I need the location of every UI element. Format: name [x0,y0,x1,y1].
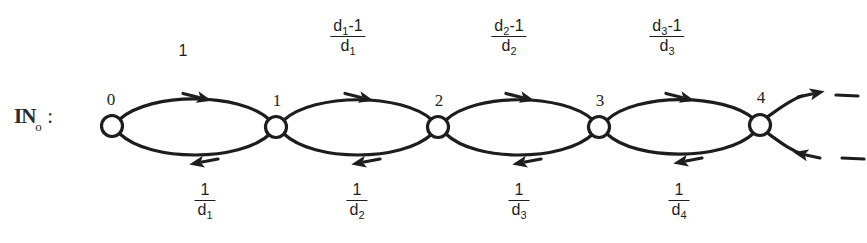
edge-3-2-backward-arrowhead [525,159,541,162]
node-circles [102,115,771,138]
edge-label-top-0: 1 [179,42,188,60]
num-base: d [652,17,661,34]
fraction-numerator: d1-1 [330,18,365,37]
fraction: 1 d3 [508,182,529,219]
node-label-4: 4 [749,88,773,108]
den-base: d [511,201,520,218]
fraction-numerator: d2-1 [491,18,526,37]
node-label-3: 3 [588,91,612,111]
fraction: d1-1 d1 [330,18,365,55]
den-base: d [659,37,668,54]
markov-chain-diagram: INo: [0,0,867,243]
edge-label-bottom-2: 1 d3 [508,182,529,219]
den-base: d [340,37,349,54]
edge-out-tail-top [836,95,858,96]
fraction-denominator: d1 [330,37,365,55]
edge-label-top-0-value: 1 [179,43,188,59]
edge-in-tail-bottom [842,158,864,159]
num-tail: -1 [509,17,523,34]
edge-label-top-1: d1-1 d1 [330,18,365,55]
fraction: 1 d4 [668,182,689,219]
edge-4-3-backward-arrowhead [686,158,702,161]
fraction-numerator: 1 [194,182,215,201]
node-circle-3[interactable] [589,117,610,138]
den-subscript: 3 [520,209,526,221]
den-base: d [197,201,206,218]
edge-1-0-backward-arrowhead [202,159,218,162]
fraction-denominator: d2 [346,201,367,219]
fraction: d3-1 d3 [649,18,684,55]
den-base: d [501,37,510,54]
fraction-numerator: 1 [668,182,689,201]
edge-0-1-forward [120,99,270,120]
node-label-1: 1 [265,91,289,111]
edge-1-2-forward [284,100,432,120]
fraction: 1 d2 [346,182,367,219]
fraction: d2-1 d2 [491,18,526,55]
num-base: d [333,17,342,34]
edge-3-2-backward [446,134,593,155]
node-circle-0[interactable] [102,116,123,137]
fraction-denominator: d2 [491,37,526,55]
edge-2-3-forward [446,100,593,120]
edge-label-top-3: d3-1 d3 [649,18,684,55]
edge-3-4-forward [607,100,754,120]
edge-2-1-backward-arrowhead [364,159,380,162]
edge-2-1-backward [284,134,432,155]
fraction-denominator: d3 [649,37,684,55]
edge-in-to-4-backward [766,132,804,155]
edge-label-top-2: d2-1 d2 [491,18,526,55]
den-subscript: 2 [358,209,364,221]
edge-in-to-4-backward-arrowhead [806,155,820,158]
den-subscript: 4 [680,209,686,221]
den-base: d [349,201,358,218]
fraction-denominator: d3 [508,201,529,219]
node-circle-2[interactable] [428,117,449,138]
den-subscript: 1 [206,209,212,221]
fraction-numerator: 1 [346,182,367,201]
edge-label-bottom-3: 1 d4 [668,182,689,219]
fraction-denominator: d4 [668,201,689,219]
den-subscript: 2 [510,45,516,57]
node-circle-1[interactable] [266,117,287,138]
fraction: 1 d1 [194,182,215,219]
fraction-numerator: d3-1 [649,18,684,37]
num-base: d [494,17,503,34]
num-tail: -1 [348,17,362,34]
node-label-0: 0 [99,90,123,110]
edge-4-out-forward-arrowhead [798,94,812,97]
node-label-2: 2 [427,91,451,111]
num-tail: -1 [667,17,681,34]
edge-label-bottom-1: 1 d2 [346,182,367,219]
den-base: d [671,201,680,218]
edge-1-0-backward [120,134,270,155]
fraction-numerator: 1 [508,182,529,201]
den-subscript: 3 [668,45,674,57]
edge-2-3-forward-arrowhead [506,94,522,98]
fraction-denominator: d1 [194,201,215,219]
edge-4-3-backward [607,133,754,154]
den-subscript: 1 [349,45,355,57]
edge-1-2-forward-arrowhead [345,94,361,98]
node-circle-4[interactable] [750,115,771,136]
edge-label-bottom-0: 1 d1 [194,182,215,219]
graph-canvas [0,0,867,243]
edge-3-4-forward-arrowhead [666,94,682,98]
edge-0-1-forward-arrowhead [183,94,199,98]
